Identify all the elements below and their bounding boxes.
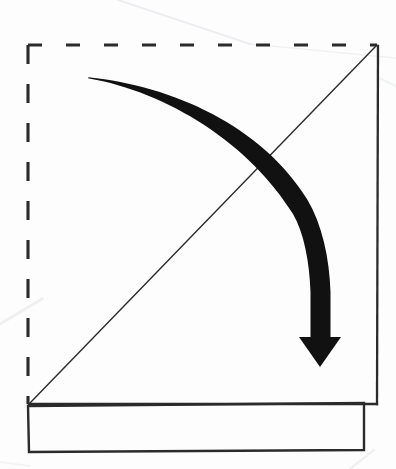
sheet-right-edge-solid [377,46,378,404]
paper-background [0,0,396,469]
diagram-canvas [0,0,396,469]
origami-fold-diagram: Paper fold step diagram Square sheet wit… [0,0,396,469]
